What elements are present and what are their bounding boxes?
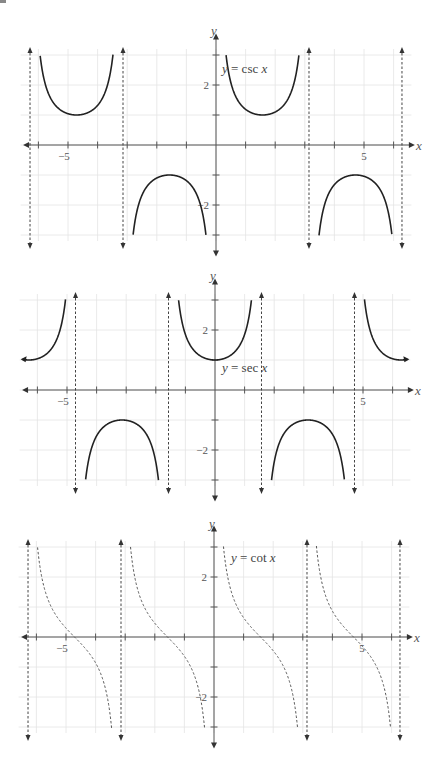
asymptote-down-arrow-icon: [26, 735, 31, 741]
y-axis-down-arrow-icon: [211, 743, 217, 749]
equation-label: y = sec x: [220, 360, 267, 375]
y-tick-label: 2: [203, 324, 209, 336]
equation-label: y = csc x: [220, 61, 267, 76]
asymptote-up-arrow-icon: [26, 539, 31, 545]
axes: −552−2xy: [23, 23, 422, 257]
asymptote-down-arrow-icon: [28, 243, 33, 249]
y-tick-label: −2: [195, 691, 207, 703]
y-axis-label: y: [207, 516, 215, 531]
asymptote-up-arrow-icon: [397, 539, 402, 545]
asymptote-up-arrow-icon: [259, 292, 264, 298]
x-axis-right-arrow-icon: [407, 634, 413, 640]
asymptote-down-arrow-icon: [306, 243, 311, 249]
x-tick-label: −5: [58, 150, 70, 162]
sec-graph: −552−2xyy = sec x: [20, 268, 421, 502]
asymptote-up-arrow-icon: [121, 47, 126, 53]
x-tick-label: 5: [359, 642, 365, 654]
csc-graph: −552−2xyy = csc x: [21, 23, 422, 257]
asymptote-up-arrow-icon: [304, 539, 309, 545]
x-axis-right-arrow-icon: [409, 142, 415, 148]
asymptote-up-arrow-icon: [306, 47, 311, 53]
asymptote-up-arrow-icon: [166, 292, 171, 298]
x-axis-label: x: [414, 383, 421, 398]
asymptote-down-arrow-icon: [397, 735, 402, 741]
y-tick-label: 2: [204, 79, 210, 91]
curve-right-arrow-icon: [403, 356, 409, 362]
asymptote-down-arrow-icon: [259, 488, 264, 494]
y-tick-label: 2: [202, 571, 208, 583]
y-axis-label: y: [208, 268, 216, 283]
x-axis-right-arrow-icon: [408, 387, 414, 393]
asymptote-down-arrow-icon: [304, 735, 309, 741]
asymptote-down-arrow-icon: [121, 243, 126, 249]
asymptote-down-arrow-icon: [399, 243, 404, 249]
axes: −552−2xy: [22, 268, 421, 502]
y-axis-label: y: [209, 23, 217, 38]
y-axis-down-arrow-icon: [212, 496, 218, 502]
x-tick-label: 5: [361, 150, 367, 162]
x-tick-label: 5: [360, 395, 366, 407]
equation-label: y = cot x: [229, 550, 276, 565]
asymptote-up-arrow-icon: [352, 292, 357, 298]
curve-branch: [316, 546, 390, 727]
asymptote-up-arrow-icon: [119, 539, 124, 545]
x-tick-label: −5: [56, 642, 68, 654]
axes: −552−2xy: [21, 516, 420, 749]
asymptote-down-arrow-icon: [119, 735, 124, 741]
trig-graphs-figure: −552−2xyy = csc x −552−2xyy = sec x −552…: [0, 0, 443, 764]
x-axis-left-arrow-icon: [23, 142, 29, 148]
y-tick-label: −2: [196, 444, 208, 456]
asymptote-down-arrow-icon: [73, 488, 78, 494]
asymptote-up-arrow-icon: [28, 47, 33, 53]
x-tick-label: −5: [57, 395, 69, 407]
asymptote-down-arrow-icon: [352, 488, 357, 494]
x-axis-label: x: [413, 630, 420, 645]
curve-branch: [38, 547, 112, 728]
cot-graph: −552−2xyy = cot x: [19, 516, 420, 749]
x-axis-label: x: [415, 138, 422, 153]
y-axis-down-arrow-icon: [213, 251, 219, 257]
x-axis-left-arrow-icon: [22, 387, 28, 393]
asymptote-up-arrow-icon: [73, 292, 78, 298]
asymptote-down-arrow-icon: [166, 488, 171, 494]
asymptote-up-arrow-icon: [399, 47, 404, 53]
curve-left-arrow-icon: [21, 356, 27, 362]
x-axis-left-arrow-icon: [21, 634, 27, 640]
